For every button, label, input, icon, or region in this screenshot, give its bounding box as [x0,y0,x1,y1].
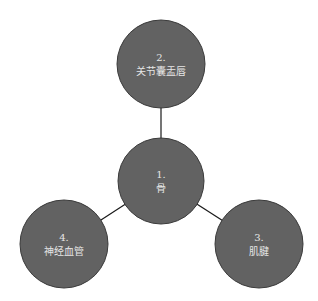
node-1: 1.骨 [118,138,204,224]
node-circle [20,200,108,288]
node-label: 关节囊盂唇 [136,65,186,77]
node-label: 神经血管 [44,245,84,257]
node-number: 1. [156,169,166,180]
node-3: 3.肌腱 [215,200,303,288]
node-4: 4.神经血管 [20,200,108,288]
node-circle [117,20,205,108]
node-label: 骨 [156,183,166,194]
diagram-svg: 1.骨2.关节囊盂唇3.肌腱4.神经血管 [0,0,318,301]
node-circle [118,138,204,224]
diagram-canvas: 1.骨2.关节囊盂唇3.肌腱4.神经血管 [0,0,318,301]
nodes: 1.骨2.关节囊盂唇3.肌腱4.神经血管 [20,20,303,288]
node-2: 2.关节囊盂唇 [117,20,205,108]
node-label: 肌腱 [249,246,269,257]
node-number: 4. [59,232,69,243]
node-number: 2. [156,52,166,63]
node-circle [215,200,303,288]
node-number: 3. [254,232,264,243]
